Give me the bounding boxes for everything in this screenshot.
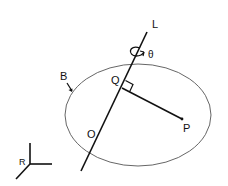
label-q: Q (111, 74, 120, 86)
label-r: R (19, 157, 26, 167)
axis-line-l (81, 32, 147, 171)
body-ellipse (65, 64, 211, 166)
label-l: L (152, 18, 158, 30)
label-o: O (87, 128, 96, 140)
segment-qp (122, 88, 182, 119)
label-p: P (183, 122, 190, 134)
rigid-body-rotation-diagram: L θ B Q P O R (0, 0, 228, 186)
point-p-dot (181, 118, 184, 121)
label-b: B (60, 70, 67, 82)
label-theta: θ (148, 49, 154, 60)
